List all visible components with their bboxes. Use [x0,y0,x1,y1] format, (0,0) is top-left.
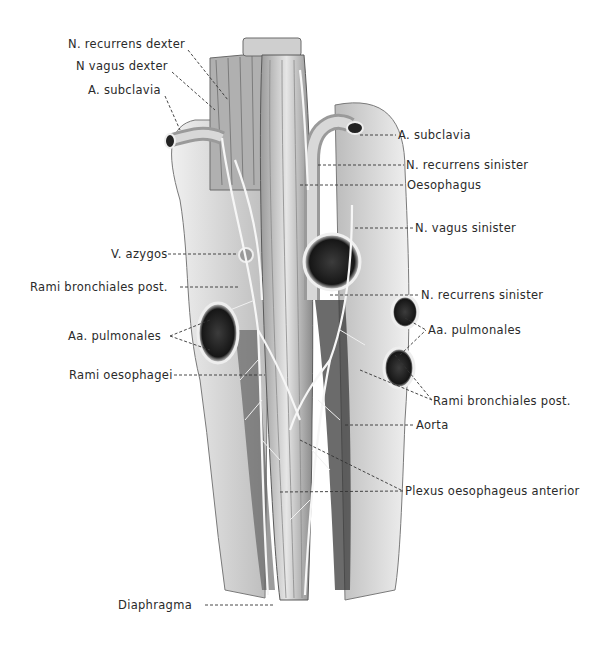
pulmonary-artery-left [198,303,238,363]
label-a-subclavia-left: A. subclavia [88,84,161,97]
label-v-azygos: V. azygos [111,248,168,261]
label-n-recurrens-dexter: N. recurrens dexter [68,38,185,51]
label-aorta: Aorta [416,419,449,432]
label-oesophagus: Oesophagus [407,179,481,192]
label-rami-bronchiales-post-left: Rami bronchiales post. [30,281,168,294]
label-n-recurrens-sinister-lower: N. recurrens sinister [421,289,543,302]
subclavian-cut-right [347,122,363,134]
label-rami-oesophagei: Rami oesophagei [69,369,173,382]
label-plexus-oesophageus-anterior: Plexus oesophageus anterior [405,485,580,498]
label-aa-pulmonales-right: Aa. pulmonales [428,324,521,337]
label-rami-bronchiales-post-right: Rami bronchiales post. [433,395,571,408]
oesophagus-cut-top [243,38,301,56]
label-diaphragma: Diaphragma [118,599,192,612]
aorta-shadow [315,300,351,590]
label-n-vagus-sinister: N. vagus sinister [415,222,516,235]
label-aa-pulmonales-left: Aa. pulmonales [68,330,161,343]
label-a-subclavia-right: A. subclavia [398,129,471,142]
label-n-recurrens-sinister-upper: N. recurrens sinister [406,159,528,172]
label-n-vagus-dexter: N vagus dexter [76,60,168,73]
anatomical-illustration [0,0,616,648]
